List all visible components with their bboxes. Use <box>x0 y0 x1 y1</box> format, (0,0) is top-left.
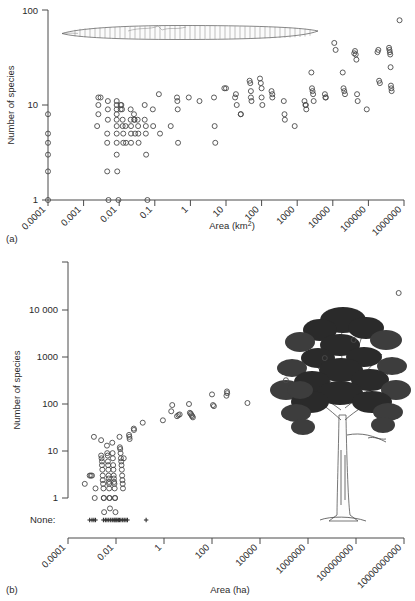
panel-b-xtick-0: 0.0001 <box>39 542 67 570</box>
panel-b-xtick-4: 10000 <box>233 542 259 568</box>
data-point <box>248 89 253 94</box>
panel-a-y-tick-labels: 1 10 100 <box>22 5 38 205</box>
data-point <box>115 169 120 174</box>
data-point <box>176 140 181 145</box>
data-point <box>364 107 369 112</box>
data-point <box>82 481 87 486</box>
data-point <box>340 70 345 75</box>
data-point <box>105 107 110 112</box>
none-row-label: None: <box>30 514 55 525</box>
data-point <box>259 86 264 91</box>
panel-b-ytick-2: 100 <box>42 398 58 409</box>
panel-b-xtick-2: 1 <box>152 542 164 554</box>
data-point <box>260 103 265 108</box>
panel-a-xtick-7: 1000 <box>274 204 297 227</box>
panel-a-xtick-3: 0.1 <box>137 204 154 221</box>
panel-a-xtick-9: 100000 <box>338 204 368 234</box>
data-point <box>258 81 263 86</box>
panel-b-ytick-0: 1 <box>53 492 58 503</box>
panel-b-ytick-1: 10 <box>47 445 58 456</box>
data-point <box>113 496 118 501</box>
data-point <box>311 92 316 97</box>
data-point <box>105 117 110 122</box>
panel-a-data-points <box>46 18 403 203</box>
data-point <box>96 103 101 108</box>
data-point <box>234 103 239 108</box>
panel-a: 1 10 100 Number of species 0.0001 0.001 … <box>0 0 415 250</box>
data-point <box>104 443 109 448</box>
data-point <box>107 506 112 511</box>
panel-b-y-axis-title: Number of species <box>11 350 22 429</box>
data-point <box>114 112 119 117</box>
data-point <box>114 140 119 145</box>
data-point <box>282 117 287 122</box>
panel-a-xtick-1: 0.001 <box>58 204 83 229</box>
tree-icon <box>270 307 411 521</box>
data-point <box>142 117 147 122</box>
data-point <box>102 510 107 515</box>
data-point <box>270 95 275 100</box>
data-point <box>93 486 98 491</box>
data-point <box>129 124 134 129</box>
data-point <box>257 76 262 81</box>
data-point <box>107 496 112 501</box>
data-point <box>114 152 119 157</box>
data-point <box>292 124 297 129</box>
data-point <box>136 124 141 129</box>
panel-b-label: (b) <box>6 584 18 595</box>
earthworm-icon <box>62 26 318 40</box>
panel-a-x-axis-title-text: Area (km <box>209 220 248 231</box>
panel-a-ytick-2: 100 <box>22 5 38 16</box>
data-point <box>142 103 147 108</box>
data-point <box>92 496 97 501</box>
data-point <box>186 95 191 100</box>
data-point <box>281 99 286 104</box>
data-point <box>160 418 165 423</box>
panel-a-label: (a) <box>6 233 18 244</box>
panel-a-xtick-2: 0.01 <box>98 204 119 225</box>
species-area-figure: 1 10 100 Number of species 0.0001 0.001 … <box>0 0 415 601</box>
data-point <box>151 124 156 129</box>
data-point <box>309 70 314 75</box>
data-point <box>175 107 180 112</box>
panel-a-xtick-5: 10 <box>210 204 225 219</box>
data-point <box>282 112 287 117</box>
data-point <box>144 152 149 157</box>
data-point <box>143 124 148 129</box>
data-point <box>120 117 125 122</box>
data-point <box>388 65 393 70</box>
data-point <box>249 99 254 104</box>
panel-a-xtick-10: 1000000 <box>369 204 403 238</box>
data-point <box>105 169 110 174</box>
data-point <box>397 18 402 23</box>
data-point <box>212 124 217 129</box>
data-point <box>105 99 110 104</box>
data-point <box>333 47 338 52</box>
data-point <box>110 456 115 461</box>
data-point <box>396 291 401 296</box>
panel-b-plot: 1 10 100 1000 10 000 Number of species N… <box>0 250 415 601</box>
data-point <box>175 99 180 104</box>
data-point <box>355 92 360 97</box>
data-point <box>259 95 264 100</box>
data-point <box>168 124 173 129</box>
data-point <box>105 131 110 136</box>
data-point <box>96 112 101 117</box>
data-point <box>211 95 216 100</box>
panel-b-xtick-7: 10000000000 <box>355 542 404 591</box>
data-point <box>170 403 175 408</box>
data-point <box>136 140 141 145</box>
panel-b: 1 10 100 1000 10 000 Number of species N… <box>0 250 415 601</box>
panel-b-xtick-6: 100000000 <box>314 542 355 583</box>
data-point <box>342 92 347 97</box>
data-point <box>169 409 174 414</box>
data-point <box>245 401 250 406</box>
data-point <box>210 392 215 397</box>
panel-a-ytick-1: 10 <box>27 99 38 110</box>
panel-a-xtick-0: 0.0001 <box>19 204 47 232</box>
none-row-markers <box>87 518 148 522</box>
panel-b-xtick-5: 1000000 <box>273 542 307 576</box>
panel-a-xtick-8: 10000 <box>306 204 332 230</box>
panel-a-plot: 1 10 100 Number of species 0.0001 0.001 … <box>0 0 415 250</box>
data-point <box>355 99 360 104</box>
